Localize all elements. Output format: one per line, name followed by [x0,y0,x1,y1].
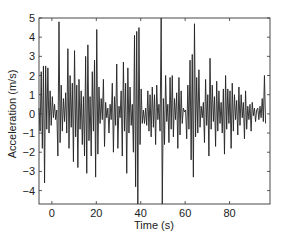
y-tick-label: −1 [22,127,35,139]
x-tick-label: 0 [49,207,55,219]
x-tick-label: 80 [223,207,235,219]
x-tick-label: 60 [179,207,191,219]
y-tick-label: 4 [29,31,35,43]
x-tick-label: 40 [135,207,147,219]
y-tick-label: 0 [29,108,35,120]
y-tick-label: −4 [22,185,35,197]
y-tick-label: −3 [22,165,35,177]
x-axis-label: Time (s) [134,219,174,231]
y-tick-label: −2 [22,146,35,158]
y-axis-label: Acceleration (m/s) [6,70,18,159]
y-tick-label: 2 [29,70,35,82]
y-tick-label: 3 [29,50,35,62]
acceleration-chart: 020406080 −4−3−2−1012345 Time (s) Accele… [0,0,285,238]
y-tick-label: 5 [29,12,35,24]
x-tick-label: 20 [90,207,102,219]
y-tick-label: 1 [29,89,35,101]
